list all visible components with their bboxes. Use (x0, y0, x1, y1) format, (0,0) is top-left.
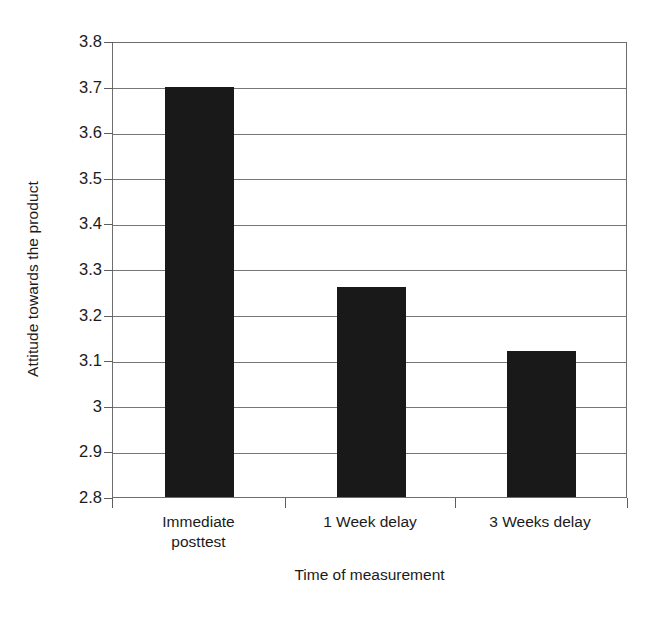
x-tick-label-line: 1 Week delay (280, 512, 460, 532)
y-tick-mark (104, 452, 113, 453)
x-tick-label: Immediateposttest (109, 512, 289, 553)
y-tick-label: 3.4 (42, 215, 102, 232)
y-tick-label: 3.1 (42, 352, 102, 369)
plot-area (112, 42, 627, 498)
y-tick-label: 3.2 (42, 307, 102, 324)
y-tick-mark (104, 316, 113, 317)
y-tick-label: 2.9 (42, 443, 102, 460)
bar-chart-figure: Attitude towards the product 3.83.73.63.… (0, 0, 663, 621)
x-tick-label-line: 3 Weeks delay (450, 512, 630, 532)
y-tick-label: 2.8 (42, 489, 102, 506)
y-tick-mark (104, 179, 113, 180)
x-tick-label-line: posttest (109, 532, 289, 552)
y-tick-label: 3.7 (42, 79, 102, 96)
x-tick-mark (455, 498, 456, 508)
y-tick-label: 3 (42, 398, 102, 415)
y-tick-mark (104, 42, 113, 43)
x-tick-label: 1 Week delay (280, 512, 460, 532)
bar (507, 351, 576, 497)
x-tick-mark (285, 498, 286, 508)
y-tick-mark (104, 133, 113, 134)
x-tick-mark (112, 498, 113, 508)
bar (337, 287, 406, 497)
y-tick-mark (104, 361, 113, 362)
bar (165, 87, 234, 497)
y-tick-label: 3.5 (42, 170, 102, 187)
y-tick-label: 3.3 (42, 261, 102, 278)
x-axis-title: Time of measurement (112, 566, 627, 584)
y-tick-mark (104, 88, 113, 89)
y-tick-mark (104, 224, 113, 225)
y-tick-mark (104, 270, 113, 271)
y-tick-label: 3.8 (42, 33, 102, 50)
y-tick-mark (104, 407, 113, 408)
x-tick-label-line: Immediate (109, 512, 289, 532)
x-tick-mark (627, 498, 628, 508)
y-tick-label: 3.6 (42, 124, 102, 141)
y-axis-tick-labels: 3.83.73.63.53.43.33.23.132.92.8 (40, 0, 102, 621)
x-tick-label: 3 Weeks delay (450, 512, 630, 532)
